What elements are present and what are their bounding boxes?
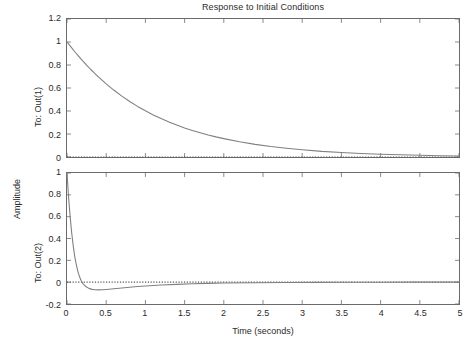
x-tick-label: 2: [221, 308, 226, 318]
y-tick-label: 1: [20, 36, 61, 46]
y-tick-label: 0: [20, 153, 61, 163]
y-tick-label: 0.2: [20, 130, 61, 140]
y-tick-label: 1: [20, 167, 61, 177]
x-tick-label: 1: [142, 308, 147, 318]
x-tick-label: 3.5: [336, 308, 349, 318]
x-tick-label: 2.5: [257, 308, 270, 318]
y-tick-label: 1.2: [20, 13, 61, 23]
x-tick-label: 5: [457, 308, 462, 318]
x-tick-label: 4.5: [414, 308, 427, 318]
y-tick-label: -0.2: [20, 300, 61, 310]
x-tick-label: 1.5: [178, 308, 191, 318]
x-tick-label: 0.5: [99, 308, 112, 318]
y-tick-label: 0.8: [20, 60, 61, 70]
subplot-top-axes: [66, 18, 460, 158]
subplot-bottom-ylabel: To: Out(2): [33, 243, 43, 283]
x-tick-label: 0: [63, 308, 68, 318]
x-tick-label: 3: [300, 308, 305, 318]
figure-canvas: Response to Initial Conditions Amplitude…: [0, 0, 474, 349]
subplot-top-plot-area: [67, 19, 459, 157]
amplitude-axis-label: Amplitude: [12, 179, 22, 219]
x-tick-label: 4: [379, 308, 384, 318]
figure-title: Response to Initial Conditions: [66, 2, 460, 12]
y-tick-label: 0.8: [20, 189, 61, 199]
subplot-bottom-plot-area: [67, 173, 459, 304]
subplot-bottom-axes: [66, 172, 460, 305]
subplot-top-ylabel: To: Out(1): [33, 87, 43, 127]
time-axis-label: Time (seconds): [66, 326, 460, 336]
y-tick-label: 0.6: [20, 211, 61, 221]
